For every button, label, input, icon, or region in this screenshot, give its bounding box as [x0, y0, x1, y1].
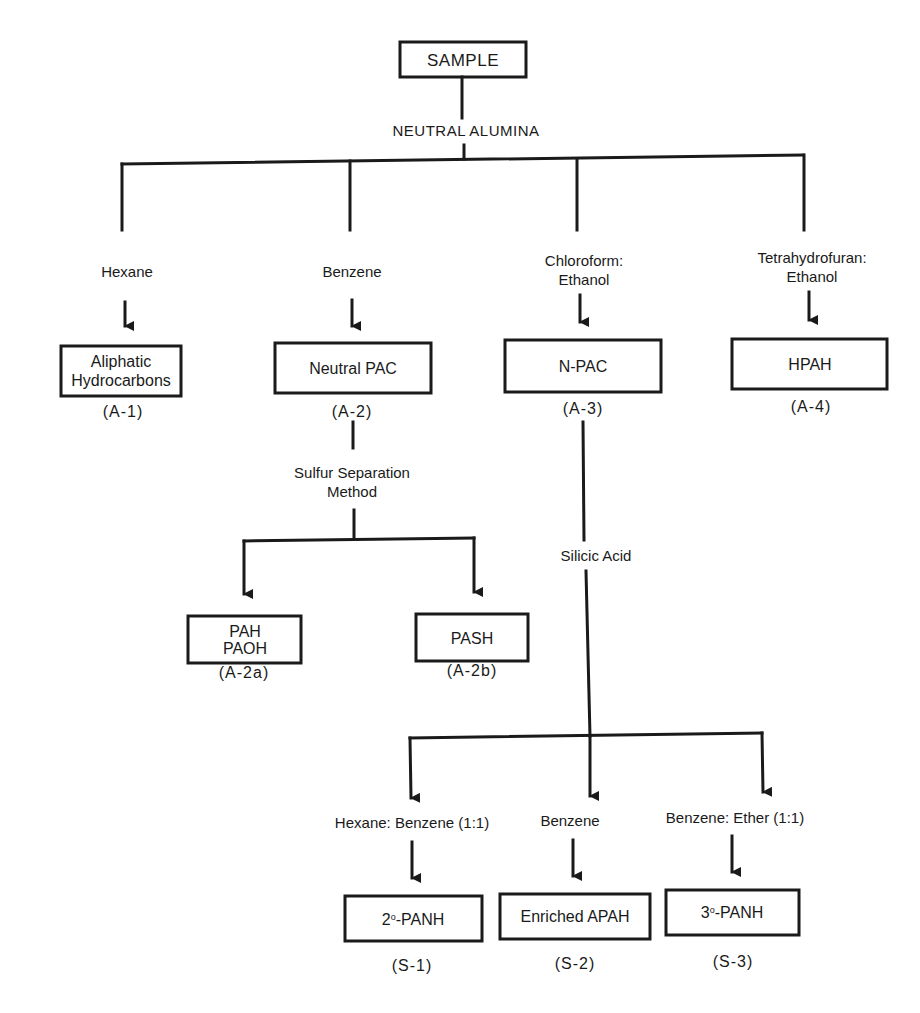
silicic-acid-label: Silicic Acid	[561, 546, 632, 565]
eluent-hexane: Hexane	[101, 262, 153, 281]
arrow-benzene-ether	[762, 733, 763, 792]
fraction-s2-label: Enriched APAH	[520, 908, 629, 925]
fractionation-flow-diagram	[0, 0, 920, 1013]
fraction-s3-degree: o	[710, 905, 715, 915]
fraction-a3-text: N-PAC	[559, 357, 608, 376]
eluent-chloroform-line1: Chloroform:	[545, 251, 623, 270]
connector-silicic-down	[586, 571, 590, 736]
fraction-s1-suffix: -PANH	[396, 911, 445, 928]
fraction-s1-text: 2o-PANH	[382, 910, 445, 929]
fraction-s3-suffix: -PANH	[715, 904, 764, 921]
fraction-s1-degree: o	[391, 912, 396, 922]
fraction-a2a-line1: PAH	[223, 623, 267, 640]
fraction-a1-line1: Aliphatic	[71, 352, 171, 371]
code-a2b: (A-2b)	[447, 662, 497, 680]
code-s2: (S-2)	[555, 955, 596, 973]
sulfur-branch-bus	[244, 538, 474, 541]
eluent-thf-line2: Ethanol	[757, 267, 866, 286]
eluent-benzene-ether: Benzene: Ether (1:1)	[666, 808, 804, 827]
sulfur-separation-line1: Sulfur Separation	[294, 463, 410, 482]
fraction-s1-prefix: 2	[382, 911, 391, 928]
code-s1: (S-1)	[392, 957, 433, 975]
fraction-a1-text: Aliphatic Hydrocarbons	[71, 352, 171, 390]
sample-label: SAMPLE	[427, 51, 499, 70]
eluent-thf-line1: Tetrahydrofuran:	[757, 248, 866, 267]
sulfur-separation-line2: Method	[294, 482, 410, 501]
eluent-hexane-benzene: Hexane: Benzene (1:1)	[335, 813, 489, 832]
fraction-s3-prefix: 3	[701, 904, 710, 921]
fraction-s3-text: 3o-PANH	[701, 903, 764, 922]
code-a2a: (A-2a)	[219, 664, 269, 682]
eluent-chloroform-line2: Ethanol	[545, 270, 623, 289]
eluent-benzene: Benzene	[322, 262, 381, 281]
fraction-a2a-line2: PAOH	[223, 640, 267, 657]
eluent-benzene-text: Benzene	[322, 262, 381, 281]
silicic-branch-bus	[410, 733, 762, 738]
fraction-a2a-text: PAH PAOH	[223, 623, 267, 657]
fraction-a4-text: HPAH	[788, 355, 831, 374]
eluent-chloroform-ethanol: Chloroform: Ethanol	[545, 251, 623, 289]
code-a1: (A-1)	[103, 403, 144, 421]
neutral-alumina-label: NEUTRAL ALUMINA	[393, 121, 540, 140]
arrow-hexane-benzene	[410, 738, 411, 798]
fraction-a2-text: Neutral PAC	[309, 359, 397, 378]
connector-a3-silicic	[583, 422, 584, 540]
eluent-benzene-s: Benzene	[540, 811, 599, 830]
fraction-a2b-text: PASH	[451, 629, 493, 648]
code-a3: (A-3)	[563, 400, 604, 418]
code-s3: (S-3)	[713, 953, 754, 971]
fraction-a1-line2: Hydrocarbons	[71, 371, 171, 390]
eluent-hexane-text: Hexane	[101, 262, 153, 281]
code-a4: (A-4)	[791, 398, 832, 416]
sulfur-separation-label: Sulfur Separation Method	[294, 463, 410, 501]
eluent-thf-ethanol: Tetrahydrofuran: Ethanol	[757, 248, 866, 286]
fraction-s2-text: Enriched APAH	[520, 907, 629, 926]
code-a2: (A-2)	[332, 403, 373, 421]
